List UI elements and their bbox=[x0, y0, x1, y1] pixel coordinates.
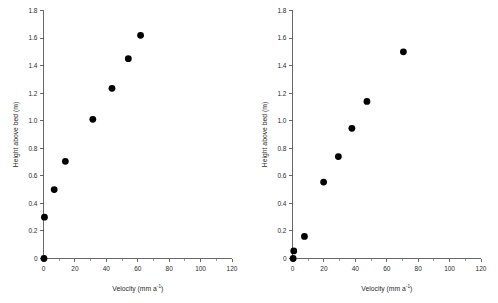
y-tick-label: 0.8 bbox=[277, 145, 286, 152]
data-point bbox=[109, 85, 116, 92]
x-tick-label: 120 bbox=[476, 265, 487, 272]
data-point bbox=[89, 116, 96, 123]
y-tick-label: 0 bbox=[283, 255, 287, 262]
x-tick-label: 120 bbox=[227, 265, 238, 272]
data-point bbox=[41, 255, 48, 262]
x-tick-label: 100 bbox=[195, 265, 206, 272]
y-tick-label: 1.8 bbox=[28, 7, 37, 14]
x-tick-label: 100 bbox=[444, 265, 455, 272]
data-point bbox=[290, 248, 297, 255]
y-tick-label: 0.4 bbox=[28, 200, 37, 207]
data-point bbox=[290, 255, 297, 262]
y-tick-label: 1.0 bbox=[28, 117, 37, 124]
y-tick-label: 0.6 bbox=[277, 172, 286, 179]
data-point bbox=[400, 48, 407, 55]
data-point bbox=[348, 125, 355, 132]
chart-panel-left: 00.20.40.60.81.01.21.41.61.8020406080100… bbox=[0, 0, 249, 303]
chart-panel-right: 00.20.40.60.81.01.21.41.61.8020406080100… bbox=[249, 0, 498, 303]
y-tick-label: 1.2 bbox=[28, 90, 37, 97]
y-tick-label: 0.2 bbox=[28, 227, 37, 234]
y-tick-label: 1.4 bbox=[277, 62, 286, 69]
y-tick-label: 0 bbox=[34, 255, 38, 262]
y-tick-label: 0.2 bbox=[277, 227, 286, 234]
data-point bbox=[41, 214, 48, 221]
x-tick-label: 80 bbox=[415, 265, 423, 272]
x-tick-label: 40 bbox=[352, 265, 360, 272]
data-point bbox=[125, 55, 132, 62]
x-axis-title: Velocity (mm a-1) bbox=[112, 284, 163, 292]
x-tick-label: 0 bbox=[42, 265, 46, 272]
y-tick-label: 1.0 bbox=[277, 117, 286, 124]
x-tick-label: 20 bbox=[71, 265, 79, 272]
x-tick-label: 60 bbox=[383, 265, 391, 272]
data-point bbox=[301, 233, 308, 240]
y-tick-label: 1.2 bbox=[277, 90, 286, 97]
data-point bbox=[51, 186, 58, 193]
x-tick-label: 60 bbox=[134, 265, 142, 272]
two-panel-scatter-figure: 00.20.40.60.81.01.21.41.61.8020406080100… bbox=[0, 0, 498, 303]
y-tick-label: 1.6 bbox=[277, 34, 286, 41]
x-tick-label: 20 bbox=[320, 265, 328, 272]
right-plot-canvas: 00.20.40.60.81.01.21.41.61.8020406080100… bbox=[249, 0, 498, 303]
y-axis-title: Height above bed (m) bbox=[261, 102, 269, 167]
x-axis-title: Velocity (mm a-1) bbox=[361, 284, 412, 292]
y-tick-label: 1.6 bbox=[28, 34, 37, 41]
y-tick-label: 0.8 bbox=[28, 145, 37, 152]
x-tick-label: 80 bbox=[166, 265, 174, 272]
y-tick-label: 0.6 bbox=[28, 172, 37, 179]
data-point bbox=[364, 98, 371, 105]
y-tick-label: 0.4 bbox=[277, 200, 286, 207]
y-tick-label: 1.8 bbox=[277, 7, 286, 14]
y-tick-label: 1.4 bbox=[28, 62, 37, 69]
left-plot-canvas: 00.20.40.60.81.01.21.41.61.8020406080100… bbox=[0, 0, 249, 303]
data-point bbox=[320, 179, 327, 186]
data-point bbox=[335, 153, 342, 160]
data-point bbox=[137, 32, 144, 39]
data-point bbox=[62, 158, 69, 165]
x-tick-label: 0 bbox=[291, 265, 295, 272]
x-tick-label: 40 bbox=[103, 265, 111, 272]
y-axis-title: Height above bed (m) bbox=[12, 102, 20, 167]
